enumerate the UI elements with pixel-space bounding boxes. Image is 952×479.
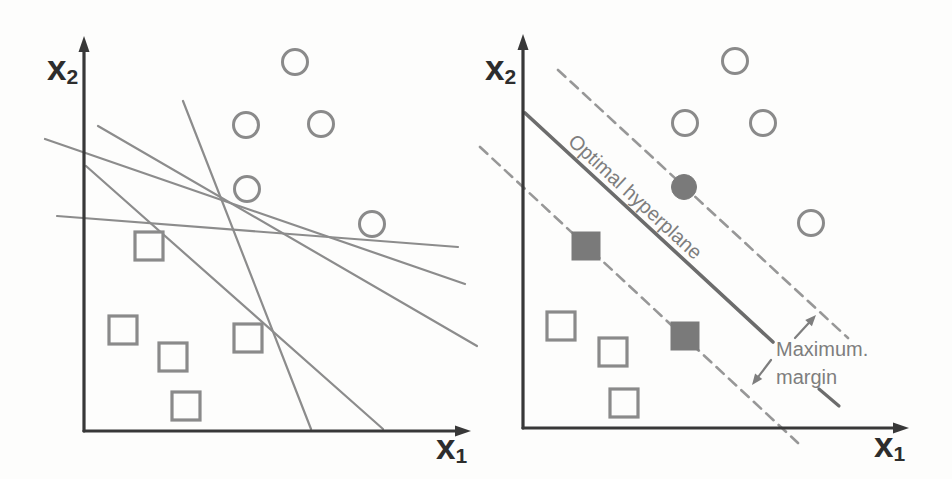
x-axis-arrow-icon	[893, 423, 909, 434]
y-axis-arrow-icon	[518, 34, 529, 50]
optimal-hyperplane-line	[525, 113, 773, 342]
svm-diagram: x2x1 x2x1Optimal hyperplaneMaximum.margi…	[0, 0, 952, 479]
class-circle-point	[723, 49, 748, 74]
margin-boundary-upper	[558, 70, 848, 338]
class-square-point	[172, 392, 200, 420]
support-vector-square	[671, 322, 699, 350]
x-axis-arrow-icon	[455, 426, 471, 437]
class-circle-point	[360, 212, 385, 237]
svm-figure-canvas: x2x1 x2x1Optimal hyperplaneMaximum.margi…	[0, 0, 952, 479]
class-circle-point	[234, 113, 259, 138]
class-square-point	[547, 312, 575, 340]
class-square-point	[135, 232, 163, 260]
class-square-point	[109, 316, 137, 344]
maximum-margin-label-line1: Maximum.	[776, 338, 868, 360]
class-circle-point	[309, 112, 334, 137]
class-square-point	[234, 324, 262, 352]
left-panel-candidate-hyperplanes: x2x1	[45, 36, 477, 467]
class-square-point	[159, 343, 187, 371]
support-vector-square	[572, 232, 600, 260]
class-circle-point	[799, 211, 824, 236]
class-square-point	[599, 338, 627, 366]
candidate-hyperplane-line	[183, 101, 311, 429]
y-axis-label: x2	[485, 48, 516, 88]
x-axis-label: x1	[874, 425, 905, 465]
margin-arrow-upper-shaft	[795, 321, 811, 338]
class-circle-point	[751, 111, 776, 136]
hyperplane-extension-dash	[819, 389, 839, 406]
maximum-margin-label-line2: margin	[776, 366, 837, 388]
support-vector-circle	[672, 175, 697, 200]
class-circle-point	[673, 111, 698, 136]
margin-arrow-lower-shaft	[757, 360, 771, 379]
candidate-hyperplane-line	[57, 216, 458, 247]
right-panel-optimal-hyperplane: x2x1Optimal hyperplaneMaximum.margin	[480, 34, 909, 465]
class-square-point	[610, 389, 638, 417]
y-axis-label: x2	[47, 48, 78, 88]
y-axis-arrow-icon	[79, 36, 90, 52]
candidate-hyperplane-line	[45, 139, 465, 284]
class-circle-point	[235, 177, 260, 202]
class-circle-point	[283, 50, 308, 75]
